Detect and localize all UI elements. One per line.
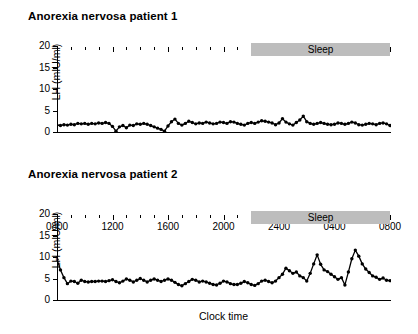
plot-area-patient-2: LH (mIU/ml) 05101520 0800120016002000240… [57, 214, 390, 300]
y-tick-label: 20 [39, 41, 50, 51]
lh-trace-patient-2 [57, 214, 391, 301]
y-tick-label: 0 [44, 295, 50, 305]
y-tick-label: 0 [44, 127, 50, 137]
panel-2-title: Anorexia nervosa patient 2 [28, 168, 178, 180]
y-tick-label: 10 [39, 84, 50, 94]
y-tick-label: 10 [39, 252, 50, 262]
y-tick-label: 20 [39, 209, 50, 219]
panel-patient-2: Anorexia nervosa patient 2 LH (mIU/ml) 0… [0, 158, 418, 334]
panel-1-title: Anorexia nervosa patient 1 [28, 10, 178, 22]
lh-trace-patient-1 [57, 46, 391, 133]
panel-patient-1: Anorexia nervosa patient 1 LH (mIU/ml) 0… [0, 0, 418, 167]
y-tick-label: 5 [44, 274, 50, 284]
y-tick-label: 15 [39, 231, 50, 241]
x-axis-title: Clock time [57, 310, 390, 322]
plot-area-patient-1: LH (mIU/ml) 05101520 Sleep [57, 46, 390, 132]
y-tick-label: 5 [44, 106, 50, 116]
y-tick-label: 15 [39, 63, 50, 73]
